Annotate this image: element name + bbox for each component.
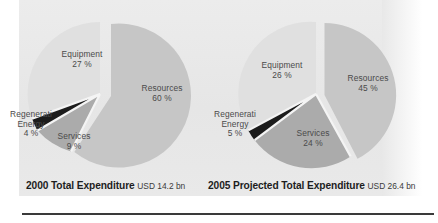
caption-2000-value: USD 14.2 bn [137,181,185,191]
pie-label-resources-2000-pct: 60 % [131,94,193,104]
caption-2005-title: 2005 Projected Total Expenditure [208,180,365,191]
pie-label-services-2000-name: Services [58,131,91,141]
pie-label-services-2005-pct: 24 % [285,139,341,149]
pie-label-regenerative-energy-2005: Regenerati Energy 5 % [203,110,267,139]
pie-label-equipment-2000-pct: 27 % [49,60,115,70]
pie-label-regenerative-energy-2000-line1: Regenerati [10,109,52,119]
bottom-horizontal-rule [22,213,434,215]
caption-2005-value: USD 26.4 bn [368,181,416,191]
figure-root: Equipment 27 % Resources 60 % Regenerati… [0,0,438,223]
pie-label-equipment-2005-name: Equipment [262,60,303,70]
pie-label-resources-2005-name: Resources [348,73,389,83]
caption-2000: 2000 Total Expenditure USD 14.2 bn [26,180,185,191]
pie-label-services-2000: Services 9 % [46,132,102,151]
pie-label-equipment-2000: Equipment 27 % [49,50,115,69]
pie-label-services-2005: Services 24 % [285,129,341,148]
pie-label-equipment-2005-pct: 26 % [249,71,315,81]
pie-label-resources-2000: Resources 60 % [131,84,193,103]
caption-2000-title: 2000 Total Expenditure [26,180,135,191]
pie-label-resources-2000-name: Resources [142,83,183,93]
bottom-white-gap [300,196,438,213]
pie-label-services-2000-pct: 9 % [46,142,102,152]
pie-chart-2005-svg [222,16,422,176]
pie-label-regenerative-energy-2005-pct: 5 % [203,129,267,139]
caption-2005: 2005 Projected Total Expenditure USD 26.… [208,180,415,191]
pie-label-services-2005-name: Services [297,128,330,138]
pie-label-regenerative-energy-2005-line1: Regenerati [214,109,256,119]
pie-chart-2005 [222,16,422,176]
pie-label-equipment-2000-name: Equipment [62,49,103,59]
pie-label-equipment-2005: Equipment 26 % [249,61,315,80]
pie-label-resources-2005: Resources 45 % [337,74,399,93]
pie-label-resources-2005-pct: 45 % [337,84,399,94]
